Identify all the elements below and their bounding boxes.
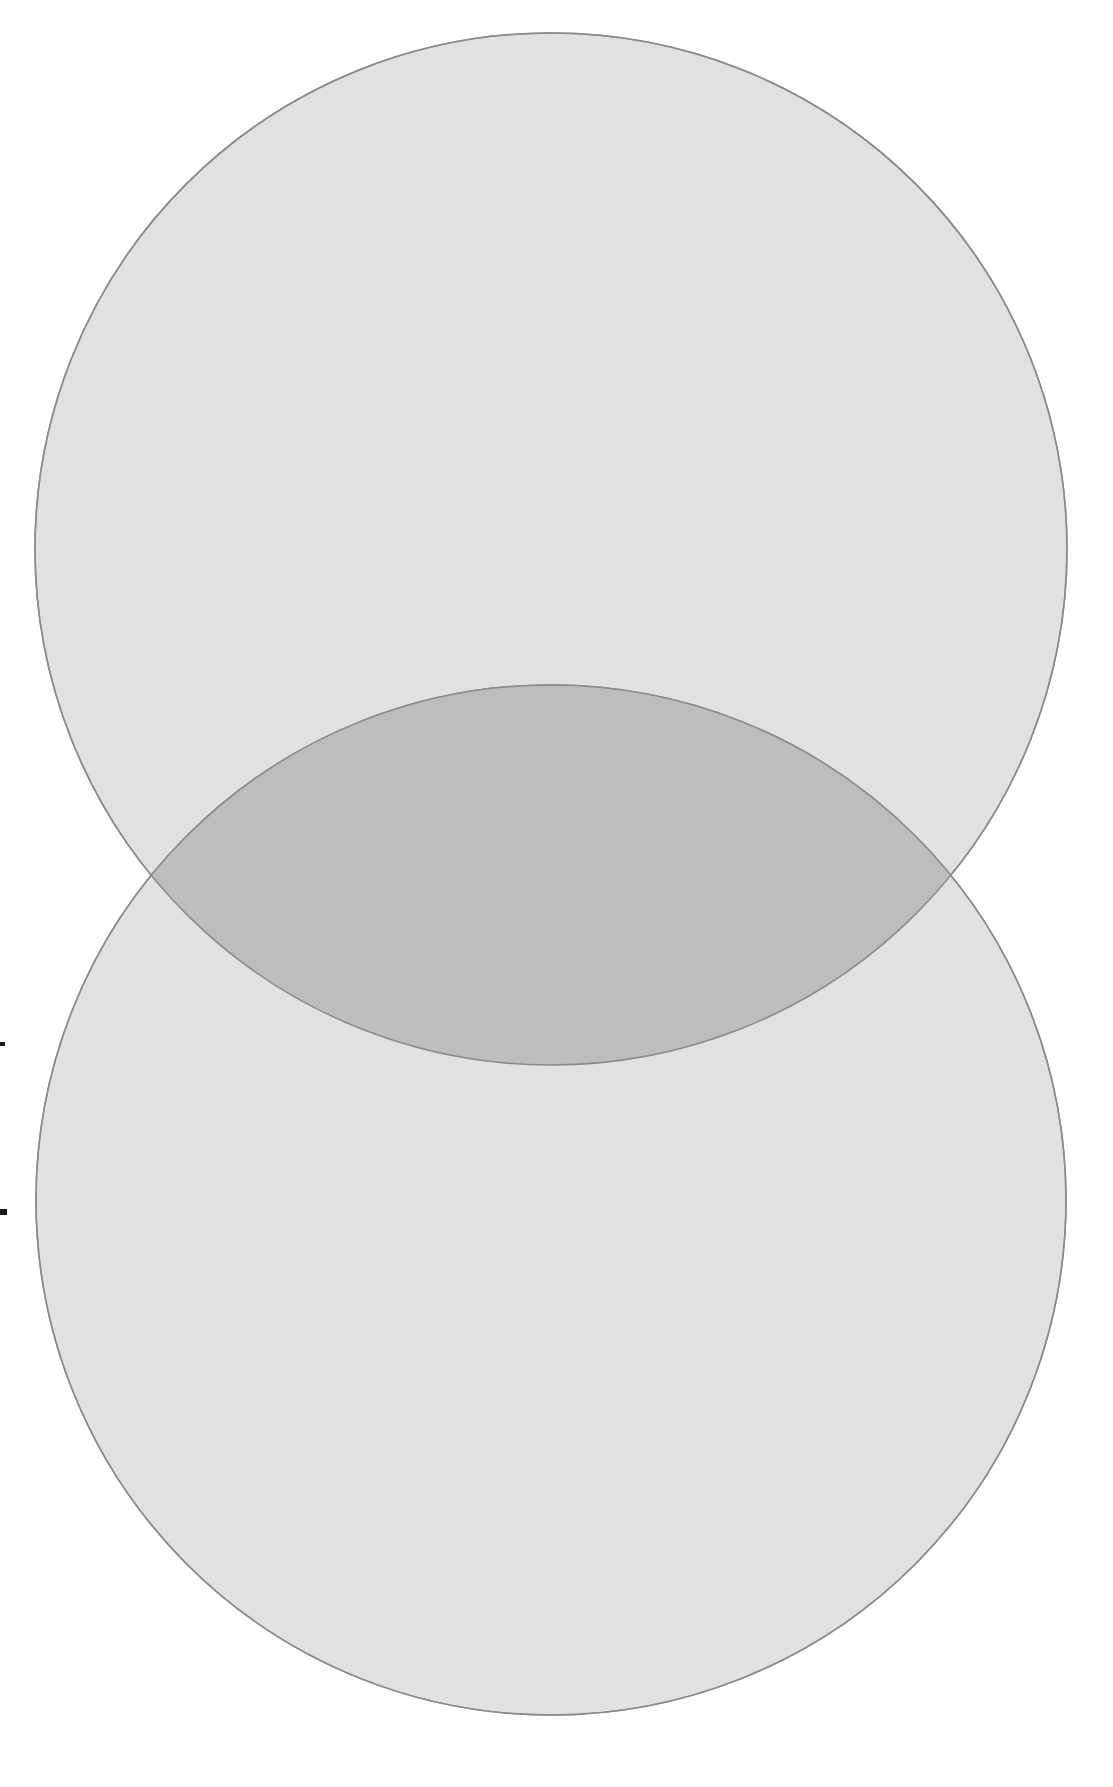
venn-diagram-figure [0,0,1113,1787]
margin-tick-lower-icon [0,1209,7,1215]
venn-diagram-canvas [0,0,1113,1787]
margin-tick-upper-icon [0,1042,5,1046]
